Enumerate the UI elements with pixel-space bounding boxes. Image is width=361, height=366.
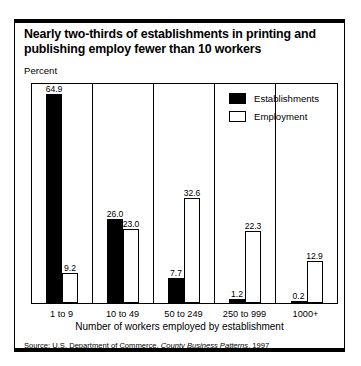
page-title: Nearly two-thirds of establishments in p… xyxy=(24,27,336,56)
x-tick-1: 1 to 9 xyxy=(31,309,92,319)
x-tick-3: 50 to 249 xyxy=(153,309,214,319)
x-tick-2: 10 to 49 xyxy=(92,309,153,319)
title-line-1: Nearly two-thirds of establishments in p… xyxy=(24,27,336,42)
bar-emp-2: 23.0 xyxy=(123,229,139,303)
bar-emp-5: 12.9 xyxy=(307,261,323,303)
bar-est-5: 0.2 xyxy=(291,301,307,303)
bar-group-1: 64.99.2 xyxy=(32,84,93,303)
bar-value-label: 7.7 xyxy=(170,269,182,278)
bar-value-label: 0.2 xyxy=(293,292,305,301)
bar-value-label: 1.2 xyxy=(231,290,243,299)
bar-group-4: 1.222.3 xyxy=(215,84,276,303)
bar-est-3: 7.7 xyxy=(168,278,184,303)
bar-group-5: 0.212.9 xyxy=(276,84,337,303)
bar-value-label: 12.9 xyxy=(306,252,323,261)
bar-value-label: 26.0 xyxy=(107,210,124,219)
title-line-2: publishing employ fewer than 10 workers xyxy=(24,42,336,57)
bar-est-4: 1.2 xyxy=(229,299,245,303)
bar-groups: 64.99.226.023.07.732.61.222.30.212.9 xyxy=(32,84,337,303)
source-note: Source: U.S. Department of Commerce, Cou… xyxy=(24,341,269,350)
bar-group-2: 26.023.0 xyxy=(93,84,154,303)
bar-emp-1: 9.2 xyxy=(62,273,78,303)
plot-area: Establishments Employment 64.99.226.023.… xyxy=(31,83,338,304)
bar-value-label: 9.2 xyxy=(64,264,76,273)
bar-emp-4: 22.3 xyxy=(245,231,261,303)
source-suffix: , 1997 xyxy=(248,341,269,350)
source-prefix: Source: U.S. Department of Commerce, xyxy=(24,341,161,350)
bar-est-2: 26.0 xyxy=(107,219,123,303)
bar-emp-3: 32.6 xyxy=(184,198,200,303)
bar-est-1: 64.9 xyxy=(46,94,62,303)
x-tick-4: 250 to 999 xyxy=(214,309,275,319)
bar-value-label: 32.6 xyxy=(184,189,201,198)
bar-group-3: 7.732.6 xyxy=(154,84,215,303)
source-publication: County Business Patterns xyxy=(161,341,248,350)
x-axis-tick-labels: 1 to 910 to 4950 to 249250 to 9991000+ xyxy=(31,306,338,319)
bar-value-label: 22.3 xyxy=(245,222,262,231)
x-tick-5: 1000+ xyxy=(275,309,336,319)
x-axis-title: Number of workers employed by establishm… xyxy=(15,321,344,332)
chart-card: Nearly two-thirds of establishments in p… xyxy=(14,19,345,352)
chart-page: Nearly two-thirds of establishments in p… xyxy=(0,0,361,366)
bar-value-label: 23.0 xyxy=(123,220,140,229)
y-axis-label: Percent xyxy=(24,65,57,76)
bar-value-label: 64.9 xyxy=(46,85,63,94)
